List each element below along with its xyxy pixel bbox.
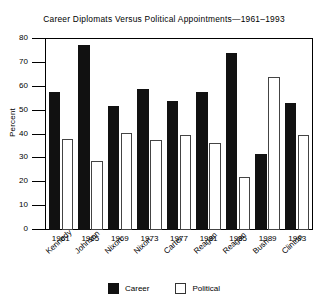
bar-political-1969 <box>121 133 133 230</box>
bar-career-1965 <box>78 45 90 230</box>
outline-square-icon <box>175 283 186 294</box>
bar-group <box>105 39 135 230</box>
y-axis-tick-label: 70 <box>0 57 28 66</box>
bar-career-1985 <box>226 53 238 230</box>
y-axis-tick-label: 10 <box>0 200 28 209</box>
y-axis-tick-label: 60 <box>0 81 28 90</box>
bar-political-1977 <box>180 135 192 231</box>
bar-group <box>194 39 224 230</box>
legend-item-career: Career <box>108 283 149 294</box>
bar-group <box>282 39 312 230</box>
chart-legend: CareerPolitical <box>0 283 328 294</box>
y-axis-tick <box>32 86 45 87</box>
y-axis-tick-label: 20 <box>0 176 28 185</box>
y-axis-label: Percent <box>8 93 17 153</box>
bar-group <box>135 39 165 230</box>
y-axis-tick-label: 50 <box>0 105 28 114</box>
bar-political-1985 <box>239 177 251 230</box>
bar-career-1993 <box>285 103 297 230</box>
bar-political-1973 <box>150 140 162 230</box>
y-axis-tick <box>32 205 45 206</box>
bar-career-1973 <box>137 89 149 230</box>
legend-label: Political <box>192 284 220 293</box>
bar-group <box>46 39 76 230</box>
y-axis-tick <box>32 62 45 63</box>
bar-political-1961 <box>62 139 74 230</box>
y-axis-tick <box>32 229 45 230</box>
y-axis-tick <box>32 157 45 158</box>
y-axis-tick <box>32 134 45 135</box>
bar-group <box>253 39 283 230</box>
bar-chart: Career Diplomats Versus Political Appoin… <box>0 0 328 306</box>
legend-item-political: Political <box>175 283 220 294</box>
legend-label: Career <box>125 284 149 293</box>
bar-career-1989 <box>255 154 267 230</box>
bar-political-1993 <box>298 135 310 231</box>
chart-title: Career Diplomats Versus Political Appoin… <box>0 14 328 24</box>
bar-group <box>164 39 194 230</box>
y-axis-tick <box>32 181 45 182</box>
y-axis-tick-label: 30 <box>0 152 28 161</box>
y-axis-tick <box>32 110 45 111</box>
bar-political-1981 <box>209 143 221 230</box>
bar-career-1981 <box>196 92 208 230</box>
bars-layer <box>46 39 312 230</box>
y-axis-tick-label: 0 <box>0 224 28 233</box>
bar-career-1961 <box>49 92 61 230</box>
bar-political-1989 <box>268 77 280 230</box>
bar-political-1965 <box>91 161 103 230</box>
y-axis-tick-label: 80 <box>0 33 28 42</box>
bar-group <box>76 39 106 230</box>
y-axis-tick <box>32 38 45 39</box>
bar-career-1969 <box>108 106 120 230</box>
filled-square-icon <box>108 283 119 294</box>
y-axis-tick-label: 40 <box>0 129 28 138</box>
bar-group <box>223 39 253 230</box>
bar-career-1977 <box>167 101 179 230</box>
